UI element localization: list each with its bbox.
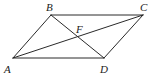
segment-bd: [51, 15, 104, 58]
vertex-label-a: A: [3, 63, 11, 75]
segments-group: [13, 15, 143, 58]
vertex-label-d: D: [99, 63, 108, 75]
vertex-label-c: C: [140, 1, 148, 13]
vertex-label-b: B: [46, 1, 53, 13]
parallelogram-diagram: A B C D F: [0, 0, 155, 77]
labels-group: A B C D F: [3, 1, 148, 75]
point-label-f: F: [75, 23, 83, 35]
